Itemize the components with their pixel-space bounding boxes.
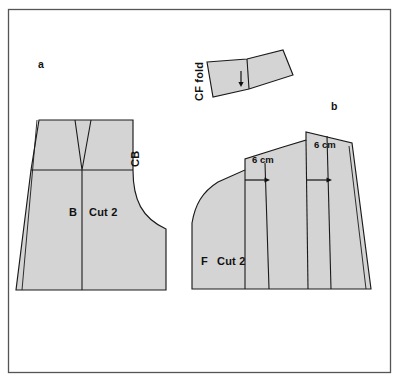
- figure-label-b: b: [331, 100, 337, 112]
- front-piece-cut-label: Cut 2: [217, 255, 246, 267]
- back-piece-letter: B: [69, 206, 77, 218]
- cf-fold-label: CF fold: [193, 62, 205, 101]
- back-cb-label: CB: [129, 151, 141, 167]
- front-spread-measure-1: 6 cm: [252, 154, 274, 165]
- pattern-figure: a b CF fold B: [0, 0, 402, 387]
- figure-label-a: a: [38, 58, 44, 70]
- front-spread-measure-2: 6 cm: [314, 139, 336, 150]
- front-piece-letter: F: [201, 255, 208, 267]
- pattern-diagram-canvas: a b CF fold B: [0, 0, 402, 387]
- back-piece-cut-label: Cut 2: [89, 206, 118, 218]
